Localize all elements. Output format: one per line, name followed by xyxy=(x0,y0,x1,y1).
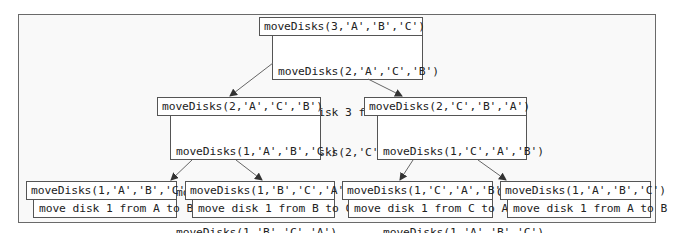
node-leaf-2-call: moveDisks(1,'B','C','A') xyxy=(185,181,335,200)
node-leaf-4-step: move disk 1 from A to B xyxy=(507,199,651,218)
node-leaf-1-call: moveDisks(1,'A','B','C') xyxy=(26,181,177,200)
step-line: moveDisks(2,'A','C','B') xyxy=(278,65,422,79)
node-leaf-2-step: move disk 1 from B to C xyxy=(192,199,335,218)
node-root-call: moveDisks(3,'A','B','C') xyxy=(259,17,423,36)
node-leaf-3-step: move disk 1 from C to A xyxy=(348,199,493,218)
step-line: moveDisks(1,'A','B','C') xyxy=(383,226,526,233)
node-leaf-1-step: move disk 1 from A to B xyxy=(33,199,177,218)
node-level2-left-call: moveDisks(2,'A','C','B') xyxy=(157,97,321,116)
step-line: moveDisks(1,'C','A','B') xyxy=(383,145,526,159)
node-root-steps: moveDisks(2,'A','C','B') move disk 3 fro… xyxy=(272,35,423,80)
node-level2-left-steps: moveDisks(1,'A','B','C') move disk 2 fro… xyxy=(170,115,321,160)
node-leaf-3-call: moveDisks(1,'C','A','B') xyxy=(342,181,493,200)
step-line: moveDisks(1,'B','C','A') xyxy=(176,226,320,233)
node-level2-right-steps: moveDisks(1,'C','A','B') move disk 2 fro… xyxy=(377,115,527,160)
step-line: moveDisks(1,'A','B','C') xyxy=(176,145,320,159)
node-leaf-4-call: moveDisks(1,'A','B','C') xyxy=(500,181,651,200)
node-level2-right-call: moveDisks(2,'C','B','A') xyxy=(364,97,527,116)
